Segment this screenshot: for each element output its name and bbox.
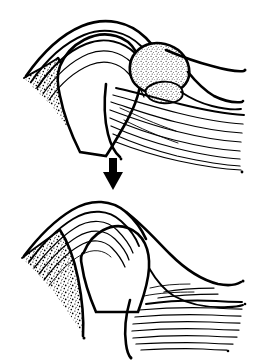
figure-root: Subacromial impingement with calcific de… [0, 0, 260, 360]
anatomical-illustration [0, 0, 260, 360]
